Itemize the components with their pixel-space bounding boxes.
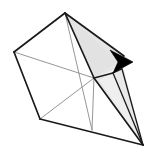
polyhedron-diagram	[0, 0, 149, 155]
figure-container	[0, 0, 149, 155]
